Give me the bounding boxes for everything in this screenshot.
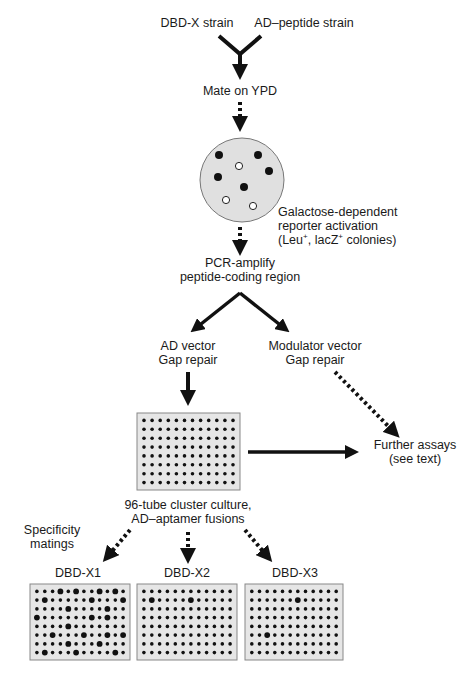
well <box>228 616 232 620</box>
well <box>311 607 315 611</box>
well <box>59 616 63 620</box>
well <box>183 463 187 467</box>
well <box>158 481 162 485</box>
well <box>166 625 170 629</box>
well <box>98 625 102 629</box>
well <box>327 607 331 611</box>
well <box>158 642 162 646</box>
well <box>181 642 185 646</box>
well <box>82 616 86 620</box>
well <box>213 607 217 611</box>
well <box>150 616 154 620</box>
well <box>231 481 235 485</box>
positive-well <box>264 632 270 638</box>
pcr-line-2: peptide-coding region <box>180 270 300 284</box>
well <box>150 651 154 655</box>
well <box>223 428 227 432</box>
well <box>281 598 285 602</box>
well <box>205 642 209 646</box>
well <box>197 633 201 637</box>
well <box>288 598 292 602</box>
well <box>327 625 331 629</box>
positive-well <box>73 589 79 595</box>
well <box>181 625 185 629</box>
well <box>142 633 146 637</box>
well <box>121 642 125 646</box>
well <box>142 472 146 476</box>
well <box>189 616 193 620</box>
well <box>215 481 219 485</box>
well <box>221 607 225 611</box>
ad-peptide-strain-label: AD–peptide strain <box>254 16 353 30</box>
well <box>231 445 235 449</box>
well <box>327 616 331 620</box>
well <box>67 616 71 620</box>
well <box>258 625 262 629</box>
well <box>167 436 171 440</box>
well <box>258 607 262 611</box>
well <box>327 651 331 655</box>
well <box>51 598 55 602</box>
well <box>59 633 63 637</box>
filled-colony <box>254 151 262 159</box>
modulator-vector-label: Modulator vector Gap repair <box>268 339 361 367</box>
well <box>175 481 179 485</box>
well <box>231 454 235 458</box>
well <box>167 445 171 449</box>
well <box>207 463 211 467</box>
well <box>273 633 277 637</box>
well <box>74 607 78 611</box>
well <box>166 633 170 637</box>
well <box>319 607 323 611</box>
well <box>158 651 162 655</box>
positive-well <box>58 589 64 595</box>
well <box>183 454 187 458</box>
positive-well <box>65 624 71 630</box>
well <box>74 625 78 629</box>
well <box>43 633 47 637</box>
positive-well <box>188 597 194 603</box>
well <box>223 454 227 458</box>
well <box>67 590 71 594</box>
mate-on-ypd-label: Mate on YPD <box>203 84 277 98</box>
further-assays-label: Further assays (see text) <box>374 438 457 466</box>
specificity-matings-label: Specificity matings <box>24 523 80 551</box>
well <box>82 607 86 611</box>
well <box>199 419 203 423</box>
well <box>207 419 211 423</box>
well <box>191 481 195 485</box>
well <box>231 463 235 467</box>
well <box>327 598 331 602</box>
well <box>250 590 254 594</box>
well <box>166 651 170 655</box>
mating-merge-arrow <box>219 36 261 72</box>
well <box>158 419 162 423</box>
well <box>304 598 308 602</box>
well <box>150 463 154 467</box>
well <box>304 651 308 655</box>
well <box>51 607 55 611</box>
lacz-text: , lacZ <box>308 233 339 247</box>
well <box>142 590 146 594</box>
well <box>288 616 292 620</box>
well <box>205 598 209 602</box>
well <box>258 642 262 646</box>
well <box>59 625 63 629</box>
well <box>191 428 195 432</box>
open-colony <box>235 162 242 169</box>
well <box>114 598 118 602</box>
well <box>221 616 225 620</box>
positive-well <box>81 632 87 638</box>
well <box>199 454 203 458</box>
well <box>207 454 211 458</box>
well <box>114 616 118 620</box>
well <box>181 598 185 602</box>
well <box>197 590 201 594</box>
well <box>35 590 39 594</box>
positive-well <box>65 641 71 647</box>
filled-colony <box>240 183 248 191</box>
well <box>288 607 292 611</box>
well <box>258 590 262 594</box>
well <box>304 642 308 646</box>
well <box>265 607 269 611</box>
